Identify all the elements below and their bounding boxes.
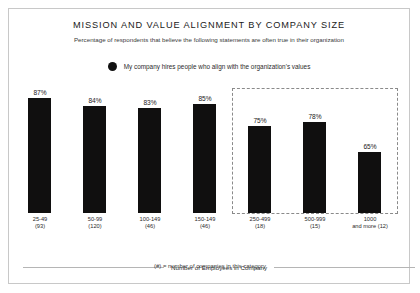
bar-rect[interactable] (193, 104, 216, 213)
bar-rect[interactable] (303, 122, 326, 213)
x-tick-label: 150-149 (46) (176, 216, 234, 231)
bar-series: 87% 25-49 (93) 84% 50-99 (120) 83% 100-1… (0, 0, 420, 293)
x-tick-line2: (46) (176, 223, 234, 230)
x-tick-label: 50-99 (120) (66, 216, 124, 231)
x-tick-line1: 250-499 (231, 216, 289, 223)
x-tick-line1: 1000 (341, 216, 399, 223)
plot-area: 87% 25-49 (93) 84% 50-99 (120) 83% 100-1… (0, 0, 420, 293)
x-tick-label: 100-149 (46) (121, 216, 179, 231)
x-tick-line2: (46) (121, 223, 179, 230)
x-tick-line1: 100-149 (121, 216, 179, 223)
bar-rect[interactable] (248, 126, 271, 213)
x-tick-line1: 50-99 (66, 216, 124, 223)
bar-value-label: 83% (124, 99, 176, 106)
bar-rect[interactable] (83, 106, 106, 213)
x-tick-label: 250-499 (18) (231, 216, 289, 231)
bar-value-label: 84% (69, 97, 121, 104)
x-tick-label: 500-999 (15) (286, 216, 344, 231)
x-tick-line2: (15) (286, 223, 344, 230)
x-tick-label: 25-49 (93) (11, 216, 69, 231)
chart-footnote: (#) = number of companies in this catego… (0, 263, 420, 269)
x-tick-line2: (93) (11, 223, 69, 230)
bar-rect[interactable] (28, 98, 51, 213)
bar-rect[interactable] (138, 108, 161, 213)
x-tick-label: 1000 and more (12) (341, 216, 399, 231)
bar-value-label: 87% (14, 89, 66, 96)
x-tick-line2: (18) (231, 223, 289, 230)
x-tick-line2: (120) (66, 223, 124, 230)
bar-value-label: 75% (234, 117, 286, 124)
bar-rect[interactable] (358, 152, 381, 213)
bar-value-label: 78% (289, 113, 341, 120)
x-tick-line1: 150-149 (176, 216, 234, 223)
x-tick-line1: 25-49 (11, 216, 69, 223)
x-tick-line1: 500-999 (286, 216, 344, 223)
bar-value-label: 65% (344, 143, 396, 150)
x-tick-line2: and more (12) (341, 223, 399, 230)
bar-value-label: 85% (179, 95, 231, 102)
